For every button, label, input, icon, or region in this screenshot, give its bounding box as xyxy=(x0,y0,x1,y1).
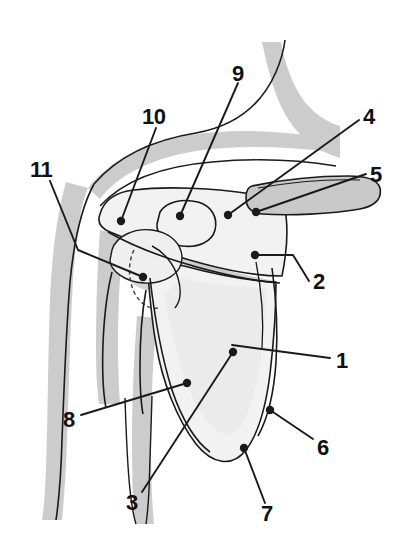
label-number-5[interactable]: 5 xyxy=(370,164,382,186)
leader-dot-6 xyxy=(266,406,274,414)
label-number-10[interactable]: 10 xyxy=(142,106,165,128)
leader-dot-7 xyxy=(240,444,248,452)
leader-dot-4 xyxy=(224,211,232,219)
leader-dot-9 xyxy=(176,212,184,220)
label-number-8[interactable]: 8 xyxy=(63,409,75,431)
label-number-9[interactable]: 9 xyxy=(232,63,244,85)
label-number-7[interactable]: 7 xyxy=(261,503,273,525)
label-number-3[interactable]: 3 xyxy=(126,492,138,514)
label-number-4[interactable]: 4 xyxy=(363,106,375,128)
label-number-1[interactable]: 1 xyxy=(336,350,348,372)
leader-dot-8 xyxy=(183,379,191,387)
leader-line-7 xyxy=(244,448,265,503)
leader-dot-3 xyxy=(229,348,237,356)
shoulder-anatomy-illustration xyxy=(0,0,403,554)
label-number-11[interactable]: 11 xyxy=(30,159,52,181)
leader-dot-11 xyxy=(139,273,147,281)
leader-dot-5 xyxy=(252,208,260,216)
leader-dot-2 xyxy=(251,251,259,259)
anatomy-figure: 1234567891011 xyxy=(0,0,403,554)
leader-line-6 xyxy=(270,410,313,439)
label-number-2[interactable]: 2 xyxy=(313,271,325,293)
leader-dot-10 xyxy=(117,217,125,225)
label-number-6[interactable]: 6 xyxy=(317,437,329,459)
